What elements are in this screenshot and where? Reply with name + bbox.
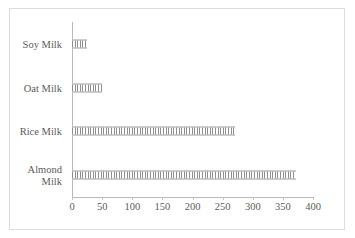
y-tick-label-soy-milk: Soy Milk <box>0 39 62 51</box>
x-tick-mark <box>132 197 133 200</box>
bar-rice-milk[interactable] <box>72 127 235 136</box>
x-tick-mark <box>253 197 254 200</box>
bar-row <box>72 66 313 110</box>
y-tick-label-text-line2: Milk <box>0 176 62 188</box>
y-tick-label-rice-milk: Rice Milk <box>0 126 62 138</box>
y-tick-label-text: Rice Milk <box>20 126 62 137</box>
chart-figure: Soy Milk Oat Milk Rice Milk Almond Milk … <box>0 0 355 238</box>
x-tick-mark <box>223 197 224 200</box>
y-tick-label-text: Oat Milk <box>24 83 62 94</box>
y-tick-label-text-line1: Almond <box>0 164 62 176</box>
bar-almond-milk[interactable] <box>72 171 296 180</box>
x-tick-label: 400 <box>293 201 333 212</box>
x-tick-mark <box>102 197 103 200</box>
plot-area <box>72 22 313 197</box>
bar-row <box>72 22 313 66</box>
bar-row <box>72 153 313 197</box>
x-tick-mark <box>162 197 163 200</box>
bar-soy-milk[interactable] <box>72 39 87 48</box>
bar-oat-milk[interactable] <box>72 83 102 92</box>
x-tick-mark <box>313 197 314 200</box>
x-tick-mark <box>283 197 284 200</box>
y-tick-label-almond-milk: Almond Milk <box>0 164 62 188</box>
bar-row <box>72 110 313 154</box>
x-tick-mark <box>193 197 194 200</box>
y-tick-label-text: Soy Milk <box>23 39 62 50</box>
x-tick-mark <box>72 197 73 200</box>
y-tick-label-oat-milk: Oat Milk <box>0 83 62 95</box>
